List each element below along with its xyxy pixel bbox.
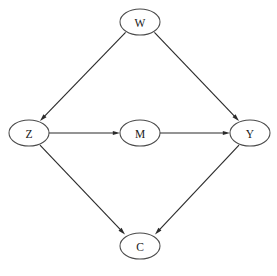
node-label: M bbox=[135, 128, 145, 140]
dag-diagram: WZMYC bbox=[0, 0, 277, 276]
node-label: Z bbox=[25, 128, 32, 140]
node-label: Y bbox=[246, 128, 255, 140]
node-w[interactable]: W bbox=[120, 9, 160, 35]
dag-canvas: WZMYC bbox=[0, 0, 277, 276]
node-m[interactable]: M bbox=[120, 120, 160, 146]
node-label: W bbox=[135, 17, 146, 29]
node-y[interactable]: Y bbox=[230, 120, 270, 146]
node-z[interactable]: Z bbox=[9, 120, 49, 146]
node-c[interactable]: C bbox=[120, 233, 160, 259]
node-label: C bbox=[136, 241, 144, 253]
